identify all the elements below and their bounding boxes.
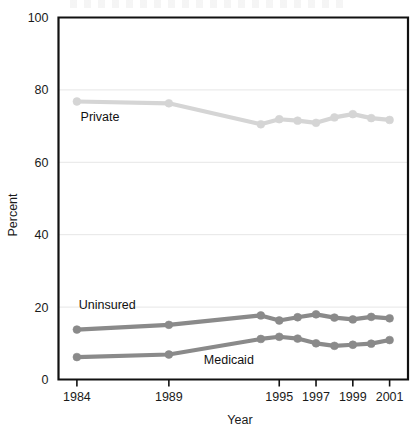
x-axis-ticks-group: 198419891995199719992001 xyxy=(63,380,404,404)
marker-medicaid-2001 xyxy=(386,336,394,344)
series-line-private xyxy=(77,101,390,124)
marker-uninsured-1995 xyxy=(275,317,283,325)
y-axis-title: Percent xyxy=(6,193,20,237)
marker-medicaid-1997 xyxy=(312,339,320,347)
series-line-uninsured xyxy=(77,314,390,329)
marker-medicaid-1989 xyxy=(165,351,173,359)
chart-canvas: 020406080100 198419891995199719992001 Pr… xyxy=(0,0,418,430)
private-label: Private xyxy=(81,110,120,124)
x-tick-label-1999: 1999 xyxy=(339,390,367,404)
axes-group xyxy=(59,18,409,380)
marker-uninsured-2000 xyxy=(367,313,375,321)
marker-uninsured-1999 xyxy=(349,316,357,324)
marker-private-1995 xyxy=(275,115,283,123)
marker-private-1998 xyxy=(331,114,339,122)
x-tick-label-1997: 1997 xyxy=(302,390,330,404)
marker-medicaid-2000 xyxy=(367,340,375,348)
x-tick-label-1995: 1995 xyxy=(265,390,293,404)
insurance-coverage-line-chart: 020406080100 198419891995199719992001 Pr… xyxy=(0,0,418,430)
y-axis-ticks-group: 020406080100 xyxy=(28,11,49,387)
y-tick-label-40: 40 xyxy=(35,228,49,242)
marker-uninsured-1994 xyxy=(257,312,265,320)
marker-private-1996 xyxy=(294,117,302,125)
y-tick-label-20: 20 xyxy=(35,301,49,315)
marker-medicaid-1998 xyxy=(331,342,339,350)
medicaid-label: Medicaid xyxy=(204,353,254,367)
marker-medicaid-1996 xyxy=(294,335,302,343)
marker-private-1999 xyxy=(349,110,357,118)
marker-uninsured-1989 xyxy=(165,321,173,329)
marker-private-2001 xyxy=(386,116,394,124)
marker-uninsured-1997 xyxy=(312,310,320,318)
marker-private-1997 xyxy=(312,119,320,127)
data-series-group xyxy=(73,98,394,361)
marker-medicaid-1994 xyxy=(257,335,265,343)
marker-private-1994 xyxy=(257,120,265,128)
plot-frame xyxy=(59,18,409,380)
marker-medicaid-1984 xyxy=(73,353,81,361)
marker-uninsured-1984 xyxy=(73,326,81,334)
x-tick-label-1989: 1989 xyxy=(155,390,183,404)
x-tick-label-1984: 1984 xyxy=(63,390,91,404)
marker-private-1984 xyxy=(73,98,81,106)
y-tick-label-60: 60 xyxy=(35,156,49,170)
uninsured-label: Uninsured xyxy=(79,298,136,312)
y-tick-label-0: 0 xyxy=(42,373,49,387)
marker-uninsured-1996 xyxy=(294,313,302,321)
x-tick-label-2001: 2001 xyxy=(376,390,404,404)
series-private xyxy=(73,98,394,129)
y-tick-label-80: 80 xyxy=(35,83,49,97)
marker-uninsured-2001 xyxy=(386,314,394,322)
y-tick-label-100: 100 xyxy=(28,11,49,25)
marker-private-2000 xyxy=(367,114,375,122)
marker-medicaid-1999 xyxy=(349,341,357,349)
x-axis-title: Year xyxy=(227,413,252,427)
marker-private-1989 xyxy=(165,99,173,107)
series-uninsured xyxy=(73,310,394,333)
marker-uninsured-1998 xyxy=(331,314,339,322)
marker-medicaid-1995 xyxy=(275,333,283,341)
